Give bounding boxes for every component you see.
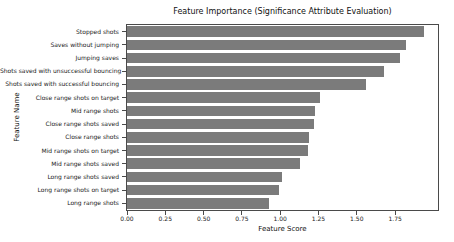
y-tick-mark <box>122 150 126 151</box>
plot-area <box>126 24 439 211</box>
y-tick-label: Mid range shots saved <box>0 160 119 168</box>
chart-title: Feature Importance (Significance Attribu… <box>126 7 439 16</box>
bar-saves-without-jumping <box>127 40 406 51</box>
y-tick-mark <box>122 31 126 32</box>
x-tick-label: 0.25 <box>153 215 177 222</box>
y-tick-mark <box>122 203 126 204</box>
y-tick-label: Mid range shots <box>0 107 119 115</box>
bar-close-range-shots <box>127 132 309 143</box>
bar-stopped-shots <box>127 26 424 37</box>
x-tick-label: 1.00 <box>268 215 292 222</box>
y-tick-label: Close range shots on target <box>0 94 119 102</box>
y-tick-label: Shots saved with unsuccessful bouncing <box>0 67 119 75</box>
bar-shots-saved-with-successful-bouncing <box>127 79 366 90</box>
y-tick-mark <box>122 176 126 177</box>
bar-long-range-shots-saved <box>127 172 282 183</box>
bar-long-range-shots-on-target <box>127 185 279 196</box>
bar-jumping-saves <box>127 53 400 64</box>
y-tick-mark <box>122 124 126 125</box>
bar-close-range-shots-on-target <box>127 92 320 103</box>
x-tick-label: 1.25 <box>307 215 331 222</box>
y-tick-mark <box>122 137 126 138</box>
y-tick-mark <box>122 163 126 164</box>
figure: Feature Importance (Significance Attribu… <box>0 0 454 242</box>
x-axis-label: Feature Score <box>126 225 439 233</box>
bar-long-range-shots <box>127 198 269 209</box>
y-tick-label: Long range shots on target <box>0 186 119 194</box>
x-tick-label: 0.75 <box>230 215 254 222</box>
bar-shots-saved-with-unsuccessful-bouncing <box>127 66 384 77</box>
x-tick-label: 1.50 <box>345 215 369 222</box>
y-tick-mark <box>122 44 126 45</box>
y-tick-mark <box>122 71 126 72</box>
y-tick-label: Mid range shots on target <box>0 147 119 155</box>
y-tick-mark <box>122 110 126 111</box>
y-tick-mark <box>122 84 126 85</box>
y-tick-label: Stopped shots <box>0 28 119 36</box>
y-tick-label: Shots saved with successful bouncing <box>0 80 119 88</box>
bar-mid-range-shots-saved <box>127 158 300 169</box>
y-tick-label: Long range shots <box>0 199 119 207</box>
bar-mid-range-shots-on-target <box>127 145 308 156</box>
x-tick-label: 1.75 <box>383 215 407 222</box>
x-tick-label: 0.00 <box>115 215 139 222</box>
y-tick-label: Long range shots saved <box>0 173 119 181</box>
bar-mid-range-shots <box>127 106 315 117</box>
y-tick-label: Close range shots <box>0 133 119 141</box>
x-tick-label: 0.50 <box>192 215 216 222</box>
y-tick-mark <box>122 190 126 191</box>
y-tick-mark <box>122 97 126 98</box>
y-tick-label: Saves without jumping <box>0 41 119 49</box>
bar-close-range-shots-saved <box>127 119 314 130</box>
y-tick-mark <box>122 58 126 59</box>
y-tick-label: Jumping saves <box>0 54 119 62</box>
y-tick-label: Close range shots saved <box>0 120 119 128</box>
